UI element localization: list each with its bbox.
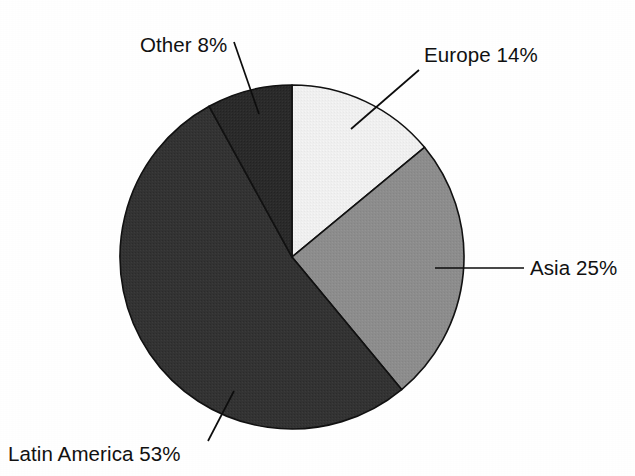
slice-label-asia: Asia 25% [530, 256, 617, 279]
pie-slices [120, 85, 464, 429]
pie-chart-figure: Europe 14% Asia 25% Latin America 53% Ot… [0, 0, 635, 476]
slice-label-latin-america: Latin America 53% [8, 442, 181, 465]
slice-label-other: Other 8% [140, 33, 227, 56]
slice-label-europe: Europe 14% [424, 43, 538, 66]
pie-chart-canvas: Europe 14% Asia 25% Latin America 53% Ot… [0, 0, 635, 476]
